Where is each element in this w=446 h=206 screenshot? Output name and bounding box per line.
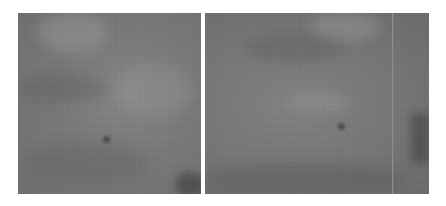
left-texture-panel xyxy=(18,13,201,194)
right-texture-panel xyxy=(205,13,429,194)
right-grain-overlay xyxy=(205,13,429,194)
left-grain-overlay xyxy=(18,13,201,194)
